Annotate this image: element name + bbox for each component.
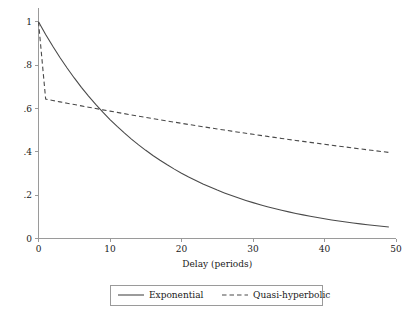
x-axis-title: Delay (periods): [182, 259, 252, 269]
x-tick-label: 20: [176, 244, 188, 254]
y-tick-label: .8: [23, 60, 32, 70]
legend-label-quasi-hyperbolic: Quasi-hyperbolic: [253, 290, 330, 300]
x-axis-ticks: 01020304050: [36, 239, 402, 255]
y-tick-label: 0: [26, 234, 32, 244]
chart-legend: ExponentialQuasi-hyperbolic: [110, 285, 330, 305]
x-tick-label: 10: [104, 244, 116, 254]
y-tick-label: 1: [26, 17, 32, 27]
y-tick-label: .6: [23, 104, 32, 114]
y-tick-label: .4: [23, 147, 32, 157]
chart-canvas: 0.2.4.6.81 01020304050 Delay (periods) E…: [0, 0, 412, 311]
x-tick-label: 50: [390, 244, 402, 254]
x-tick-label: 0: [36, 244, 42, 254]
y-axis-ticks: 0.2.4.6.81: [23, 17, 38, 244]
legend-label-exponential: Exponential: [149, 290, 204, 300]
discounting-chart-figure: 0.2.4.6.81 01020304050 Delay (periods) E…: [0, 0, 412, 311]
x-tick-label: 40: [319, 244, 331, 254]
axes: 0.2.4.6.81 01020304050: [23, 8, 402, 254]
series-line-exponential: [39, 22, 389, 227]
x-tick-label: 30: [247, 244, 259, 254]
series-line-quasi-hyperbolic: [39, 22, 389, 153]
data-series-group: [39, 22, 389, 227]
y-tick-label: .2: [23, 190, 32, 200]
